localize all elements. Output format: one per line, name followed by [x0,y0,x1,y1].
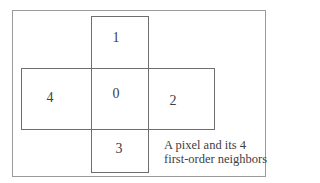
cell-label-center: 0 [113,87,120,101]
cell-label-bottom: 3 [116,142,123,156]
caption-line-2: first-order neighbors [164,152,267,166]
caption-line-1: A pixel and its 4 [164,138,267,152]
cell-label-right: 2 [170,94,177,108]
cell-label-left: 4 [47,91,54,105]
figure-caption: A pixel and its 4 first-order neighbors [164,138,267,166]
cell-label-top: 1 [113,31,120,45]
